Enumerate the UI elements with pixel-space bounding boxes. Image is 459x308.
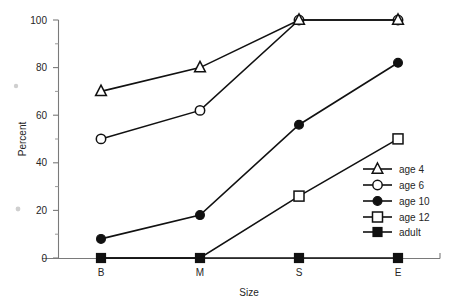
- legend-marker-filled-circle-icon: [373, 197, 382, 206]
- y-tick-label-80: 80: [36, 62, 48, 73]
- legend-marker-open-circle-icon: [373, 180, 382, 189]
- y-tick-label-20: 20: [36, 205, 48, 216]
- y-tick-label-40: 40: [36, 157, 48, 168]
- marker-age-12-e: [393, 134, 403, 144]
- legend-label-age-10: age 10: [399, 196, 430, 207]
- y-tick-label-100: 100: [30, 15, 47, 26]
- marker-age-10-e: [394, 58, 403, 67]
- legend-marker-open-square-icon: [373, 212, 383, 222]
- marker-age-6-b: [96, 134, 105, 143]
- marker-age-12-s: [294, 191, 304, 201]
- x-tick-label-m: M: [196, 267, 204, 278]
- scan-speck: [16, 207, 21, 212]
- y-tick-label-0: 0: [41, 253, 47, 264]
- marker-age-10-m: [196, 211, 205, 220]
- x-tick-label-b: B: [98, 267, 105, 278]
- legend-label-adult: adult: [399, 227, 421, 238]
- legend-label-age-12: age 12: [399, 212, 430, 223]
- y-tick-label-60: 60: [36, 110, 48, 121]
- chart-background: [0, 0, 459, 308]
- x-axis-title: Size: [239, 287, 259, 298]
- marker-age-10-b: [97, 235, 106, 244]
- legend-marker-filled-square-icon: [373, 228, 382, 237]
- line-chart-canvas: 0 20 40 60 80 100 B M S E Size Percent: [0, 0, 459, 308]
- marker-age-6-m: [195, 106, 204, 115]
- x-tick-label-s: S: [296, 267, 303, 278]
- marker-age-10-s: [295, 120, 304, 129]
- marker-adult-e: [394, 254, 403, 263]
- chart-figure: 0 20 40 60 80 100 B M S E Size Percent: [0, 0, 459, 308]
- y-axis-title: Percent: [17, 122, 28, 157]
- x-tick-label-e: E: [395, 267, 402, 278]
- marker-adult-s: [295, 254, 304, 263]
- scan-speck: [14, 84, 18, 88]
- legend-label-age-4: age 4: [399, 164, 424, 175]
- legend-label-age-6: age 6: [399, 180, 424, 191]
